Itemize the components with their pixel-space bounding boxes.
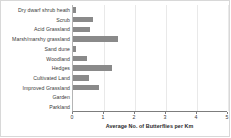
category-label: Improved Grassland xyxy=(22,85,70,91)
chart-bar-row xyxy=(73,24,227,34)
x-tick-label: 0 xyxy=(71,114,74,121)
category-label: Sand dune xyxy=(44,46,70,52)
chart-bar xyxy=(73,17,93,23)
chart-bar-row xyxy=(73,83,227,93)
chart-bar-row xyxy=(73,73,227,83)
category-label: Parkland xyxy=(49,104,70,110)
chart-bar-row xyxy=(73,54,227,64)
chart-bar-row xyxy=(73,102,227,112)
plot-area xyxy=(72,5,227,112)
category-label: Garden xyxy=(52,94,70,100)
category-label: Cultivated Land xyxy=(33,75,70,81)
chart-bar xyxy=(73,46,76,52)
category-label: Hedges xyxy=(52,65,70,71)
chart-bar xyxy=(73,65,112,71)
chart-bar xyxy=(73,56,87,62)
chart-bar xyxy=(73,85,99,91)
butterfly-habitat-bar-chart: Dry dwarf shrub heathScrubAcid Grassland… xyxy=(0,0,231,138)
x-tick-label: 3 xyxy=(164,114,167,121)
x-axis-ticks: 012345 xyxy=(72,112,227,121)
gridline xyxy=(228,5,229,111)
chart-bar xyxy=(73,36,118,42)
chart-bar-row xyxy=(73,44,227,54)
chart-bar-row xyxy=(73,5,227,15)
chart-bar-row xyxy=(73,93,227,103)
category-label: Dry dwarf shrub heath xyxy=(18,7,70,13)
x-tick-label: 5 xyxy=(226,114,229,121)
x-tick-label: 4 xyxy=(195,114,198,121)
chart-bar xyxy=(73,75,89,81)
category-label: Scrub xyxy=(56,17,70,23)
x-tick-label: 2 xyxy=(133,114,136,121)
bar-rows xyxy=(73,5,227,111)
category-label: Marsh/marshy grassland xyxy=(12,36,70,42)
chart-bar-row xyxy=(73,63,227,73)
x-axis-title: Average No. of Butterflies per Km xyxy=(72,123,227,129)
category-label: Woodland xyxy=(46,56,70,62)
x-tick-label: 1 xyxy=(102,114,105,121)
chart-bar xyxy=(73,7,76,13)
chart-bar-row xyxy=(73,34,227,44)
category-label: Acid Grassland xyxy=(34,26,70,32)
chart-bar xyxy=(73,27,90,33)
chart-bar-row xyxy=(73,15,227,25)
